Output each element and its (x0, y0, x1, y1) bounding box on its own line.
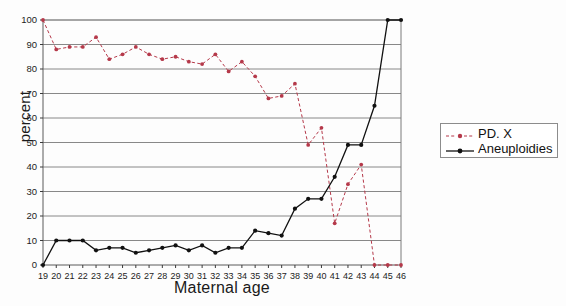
data-point (227, 70, 231, 74)
data-point (94, 35, 98, 39)
data-point (54, 238, 58, 242)
data-point (187, 248, 191, 252)
data-point (333, 175, 337, 179)
data-point (293, 207, 297, 211)
data-point (267, 97, 271, 101)
data-point (266, 231, 270, 235)
data-point (160, 57, 164, 61)
y-tick-label: 100 (21, 14, 37, 25)
data-point (333, 221, 337, 225)
y-axis-title: percent (16, 57, 33, 177)
data-point (41, 263, 45, 267)
legend-label-pd-x: PD. X (475, 127, 512, 141)
y-tick-label: 10 (26, 235, 37, 246)
data-point (373, 263, 377, 267)
data-point (372, 104, 376, 108)
x-axis-title: Maternal age (43, 279, 401, 297)
data-point (240, 60, 244, 64)
data-point (41, 18, 45, 22)
data-point (320, 126, 324, 130)
data-point (319, 197, 323, 201)
legend-swatch-aneuploidies (445, 143, 475, 155)
y-tick-label: 30 (26, 186, 37, 197)
data-point (134, 251, 138, 255)
data-point (399, 263, 403, 267)
data-point (253, 74, 257, 78)
data-point (399, 18, 403, 22)
data-point (306, 197, 310, 201)
chart-figure: 0102030405060708090100 19202122232425262… (0, 0, 566, 306)
data-point (346, 182, 350, 186)
data-point (280, 94, 284, 98)
data-point (240, 246, 244, 250)
data-point (160, 246, 164, 250)
data-point (386, 263, 390, 267)
data-point (173, 243, 177, 247)
legend-swatch-pd-x (445, 128, 475, 140)
data-point (213, 52, 217, 56)
data-point (200, 243, 204, 247)
legend-label-aneuploidies: Aneuploidies (475, 142, 552, 156)
data-point (120, 246, 124, 250)
data-point (253, 229, 257, 233)
data-point (81, 238, 85, 242)
data-point (94, 248, 98, 252)
data-point (187, 60, 191, 64)
y-tick-label: 0 (32, 259, 37, 270)
data-point (68, 45, 72, 49)
legend-item-aneuploidies[interactable]: Aneuploidies (445, 141, 554, 156)
data-point (227, 246, 231, 250)
data-point (386, 18, 390, 22)
data-point (293, 82, 297, 86)
data-point (306, 143, 310, 147)
data-point (107, 246, 111, 250)
data-point (54, 48, 58, 52)
data-point (134, 45, 138, 49)
data-point (67, 238, 71, 242)
data-point (107, 57, 111, 61)
data-point (213, 251, 217, 255)
legend-item-pd-x[interactable]: PD. X (445, 126, 554, 141)
data-point (81, 45, 85, 49)
y-tick-label: 20 (26, 210, 37, 221)
data-point (121, 52, 125, 56)
data-point (346, 143, 350, 147)
data-point (359, 143, 363, 147)
data-point (359, 163, 363, 167)
data-point (280, 234, 284, 238)
gridlines (43, 20, 401, 241)
data-point (147, 248, 151, 252)
data-point (147, 52, 151, 56)
chart-legend: PD. X Aneuploidies (440, 123, 558, 158)
data-point (200, 62, 204, 66)
data-point (174, 55, 178, 59)
y-tick-label: 90 (26, 39, 37, 50)
